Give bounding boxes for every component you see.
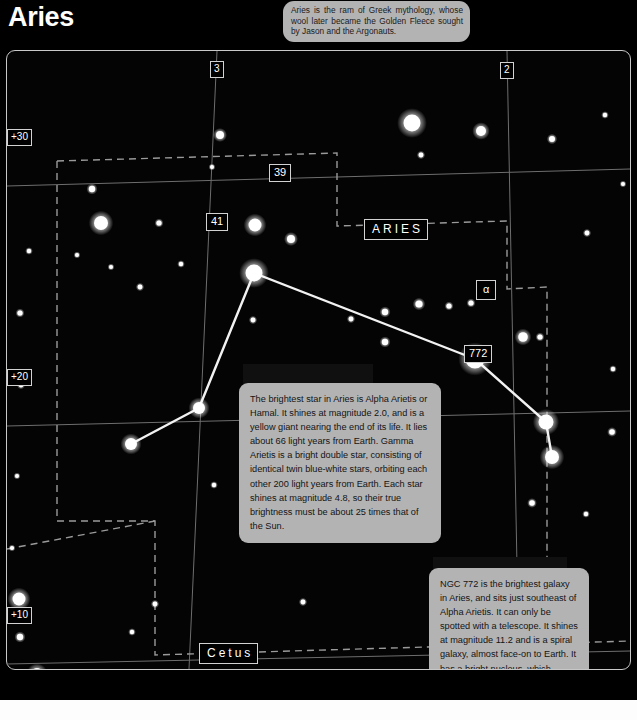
boundary-segment-2 bbox=[7, 521, 155, 549]
star-marker[interactable] bbox=[212, 483, 216, 487]
bottom-strip bbox=[0, 700, 637, 720]
ra-label-2: 2 bbox=[500, 62, 514, 79]
star-marker[interactable] bbox=[611, 367, 615, 371]
dec-label-30: +30 bbox=[7, 129, 32, 146]
star-marker[interactable] bbox=[125, 438, 137, 450]
star-marker[interactable] bbox=[17, 634, 23, 640]
star-marker[interactable] bbox=[537, 334, 542, 339]
star-marker[interactable] bbox=[415, 300, 422, 307]
star-marker[interactable] bbox=[94, 216, 108, 230]
star-marker[interactable] bbox=[249, 219, 262, 232]
constellation-label-aries[interactable]: ARIES bbox=[364, 219, 428, 240]
object-label-ngc772[interactable]: 772 bbox=[464, 345, 492, 363]
star-marker[interactable] bbox=[301, 600, 306, 605]
bottom-gap bbox=[0, 670, 637, 700]
star-marker[interactable] bbox=[419, 153, 424, 158]
dec-label-20: +20 bbox=[7, 369, 32, 386]
info-box-ngc-772: NGC 772 is the brightest galaxy in Aries… bbox=[429, 568, 589, 670]
dec-label-10: +10 bbox=[7, 607, 32, 624]
star-marker[interactable] bbox=[539, 415, 554, 430]
star-marker[interactable] bbox=[15, 474, 19, 478]
star-marker[interactable] bbox=[109, 265, 113, 269]
page-title: Aries bbox=[8, 2, 74, 33]
star-marker[interactable] bbox=[382, 309, 388, 315]
star-marker[interactable] bbox=[529, 500, 535, 506]
star-marker[interactable] bbox=[549, 136, 555, 142]
star-chart[interactable]: 3 2 +30 +20 +10 39 41 α 772 ARIES Cetus … bbox=[6, 50, 631, 670]
star-marker[interactable] bbox=[75, 253, 79, 257]
star-marker[interactable] bbox=[584, 512, 588, 516]
star-marker[interactable] bbox=[130, 630, 134, 634]
star-marker[interactable] bbox=[545, 450, 559, 464]
star-marker[interactable] bbox=[518, 332, 528, 342]
star-marker[interactable] bbox=[10, 546, 14, 550]
constellation-label-cetus[interactable]: Cetus bbox=[199, 643, 258, 664]
star-marker[interactable] bbox=[349, 317, 354, 322]
star-marker[interactable] bbox=[468, 300, 473, 305]
constellation-line-0 bbox=[131, 408, 199, 444]
star-marker[interactable] bbox=[246, 265, 263, 282]
star-marker[interactable] bbox=[251, 318, 256, 323]
star-marker[interactable] bbox=[27, 249, 31, 253]
info-box-alpha-arietis: The brightest star in Aries is Alpha Ari… bbox=[239, 383, 441, 543]
ra-gridline-3 bbox=[189, 51, 217, 669]
star-marker[interactable] bbox=[17, 310, 22, 315]
star-marker[interactable] bbox=[446, 303, 451, 308]
star-label-41[interactable]: 41 bbox=[206, 213, 228, 231]
star-marker[interactable] bbox=[210, 165, 214, 169]
star-marker[interactable] bbox=[89, 186, 95, 192]
star-marker[interactable] bbox=[603, 113, 607, 117]
star-marker[interactable] bbox=[179, 262, 183, 266]
star-marker[interactable] bbox=[156, 220, 161, 225]
star-marker[interactable] bbox=[216, 131, 224, 139]
star-marker[interactable] bbox=[609, 429, 615, 435]
star-marker[interactable] bbox=[153, 602, 158, 607]
mythology-callout: Aries is the ram of Greek mythology, who… bbox=[283, 1, 470, 42]
star-marker[interactable] bbox=[585, 231, 590, 236]
star-marker[interactable] bbox=[13, 593, 26, 606]
star-label-alpha[interactable]: α bbox=[476, 280, 496, 300]
star-marker[interactable] bbox=[476, 126, 486, 136]
star-marker[interactable] bbox=[138, 285, 143, 290]
star-marker[interactable] bbox=[382, 339, 388, 345]
star-marker[interactable] bbox=[287, 235, 295, 243]
dec-gridline-+30 bbox=[7, 169, 630, 186]
star-marker[interactable] bbox=[193, 402, 205, 414]
ra-label-3: 3 bbox=[210, 61, 224, 78]
star-label-39[interactable]: 39 bbox=[269, 164, 291, 182]
star-marker[interactable] bbox=[404, 115, 421, 132]
star-marker[interactable] bbox=[621, 182, 625, 186]
constellation-line-2 bbox=[254, 273, 475, 359]
